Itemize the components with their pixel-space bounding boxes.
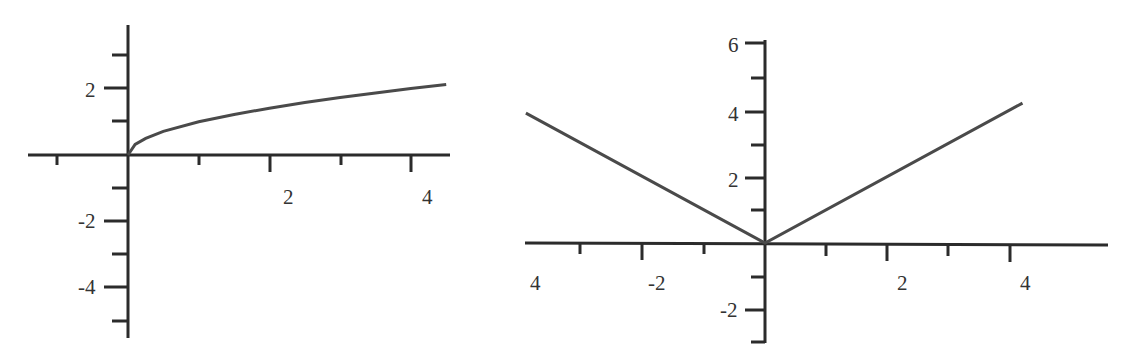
y-ticks: [104, 55, 128, 321]
y-tick-label: 2: [85, 78, 96, 102]
x-tick-label: 4: [1020, 271, 1031, 295]
x-tick-label: -2: [648, 271, 666, 295]
x-tick-label: 2: [897, 271, 908, 295]
right-axis-labels: 4-224642-2: [530, 33, 1031, 322]
x-tick-label: 4: [530, 271, 541, 295]
chart-sqrt: 242-2-4: [28, 25, 450, 338]
sqrt-curve: [128, 85, 446, 155]
y-tick-label: -2: [720, 298, 738, 322]
abs-curve: [526, 103, 1023, 243]
y-tick-label: -4: [78, 275, 96, 299]
x-axis: [525, 243, 1108, 245]
y-tick-label: 4: [728, 102, 739, 126]
chart-abs: 4-224642-2: [525, 33, 1108, 343]
x-tick-label: 2: [283, 185, 294, 209]
y-tick-label: 2: [728, 168, 739, 192]
x-ticks: [57, 155, 411, 172]
x-tick-label: 4: [422, 185, 433, 209]
y-tick-label: 6: [728, 33, 739, 57]
charts-canvas: 242-2-4 4-224642-2: [0, 0, 1129, 359]
y-ticks: [745, 43, 765, 342]
y-tick-label: -2: [78, 209, 96, 233]
